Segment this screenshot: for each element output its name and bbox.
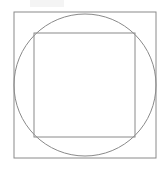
- inner-square: [34, 33, 135, 137]
- geometric-figure: [0, 0, 164, 169]
- diagram-canvas: [0, 0, 164, 169]
